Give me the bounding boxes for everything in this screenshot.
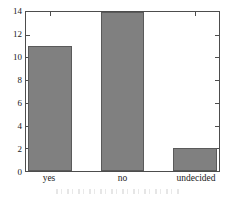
y-tick-label: 2 bbox=[18, 144, 23, 153]
x-axis-tick-top bbox=[195, 12, 196, 16]
x-tick-label: yes bbox=[43, 174, 56, 184]
bar-undecided bbox=[173, 148, 217, 171]
y-axis-tick-right bbox=[215, 103, 219, 104]
y-tick-label: 0 bbox=[18, 168, 23, 177]
bar-chart-figure: 0 2 4 6 8 10 12 14 bbox=[0, 0, 231, 199]
y-axis-tick-right bbox=[215, 57, 219, 58]
scan-artifact bbox=[56, 189, 181, 194]
y-tick-label: 6 bbox=[18, 99, 23, 108]
bar-yes bbox=[28, 46, 72, 171]
y-axis-tick-right bbox=[215, 80, 219, 81]
x-tick-label: undecided bbox=[176, 174, 215, 184]
y-tick-label: 14 bbox=[13, 7, 22, 16]
x-axis-tick-top bbox=[50, 12, 51, 16]
y-tick-label: 10 bbox=[13, 52, 22, 61]
plot-area bbox=[25, 11, 220, 172]
y-axis-tick-right bbox=[215, 126, 219, 127]
y-axis-tick bbox=[26, 35, 30, 36]
x-tick-label: no bbox=[118, 174, 128, 184]
bar-no bbox=[101, 12, 145, 171]
y-axis-tick-labels: 0 2 4 6 8 10 12 14 bbox=[0, 11, 22, 172]
y-tick-label: 8 bbox=[18, 75, 23, 84]
y-tick-label: 12 bbox=[13, 30, 22, 39]
y-axis-tick-right bbox=[215, 35, 219, 36]
x-axis-tick-labels: yes no undecided bbox=[25, 174, 220, 188]
y-tick-label: 4 bbox=[18, 122, 23, 131]
